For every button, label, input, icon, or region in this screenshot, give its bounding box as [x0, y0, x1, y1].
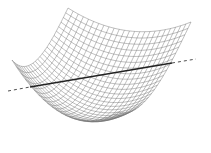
mesh-grid-line	[54, 35, 173, 68]
mesh-grid-line	[68, 8, 191, 32]
mesh-grid-line	[56, 29, 119, 111]
mesh-grid-line	[118, 22, 191, 113]
mesh-grid-line	[52, 28, 114, 109]
mesh-grid-line	[12, 8, 68, 66]
mesh-grid-line	[52, 39, 170, 73]
solid-line-segment	[30, 63, 172, 87]
dashed-line-right-segment	[172, 59, 196, 63]
dashed-line-left-segment	[8, 87, 30, 91]
mesh-grid-line	[21, 14, 78, 78]
mesh-grid-line	[31, 65, 143, 113]
mesh-grid-line	[25, 17, 83, 84]
surface-plot	[0, 0, 211, 153]
mesh-grid-line	[66, 13, 188, 38]
wireframe-surface-figure	[0, 0, 211, 153]
